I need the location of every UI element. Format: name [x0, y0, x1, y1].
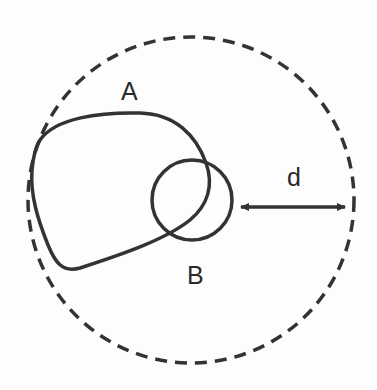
label-d: d — [287, 163, 301, 191]
region-b-circle — [152, 160, 232, 240]
outer-dashed-circle — [28, 37, 354, 363]
diagram-svg: A B d — [0, 0, 377, 390]
label-a: A — [121, 77, 138, 105]
label-b: B — [187, 261, 204, 289]
diagram-canvas: A B d — [0, 0, 377, 390]
region-a-curve — [32, 113, 210, 269]
